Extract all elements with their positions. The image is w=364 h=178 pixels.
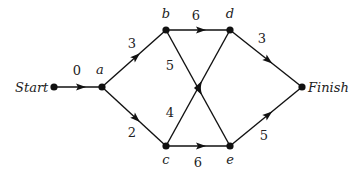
edge-weight: 5 <box>260 128 268 143</box>
edge-a-b: 3 <box>102 30 166 87</box>
edge-weight: 3 <box>258 31 266 46</box>
edge-d-finish: 3 <box>230 30 302 87</box>
edge-weight: 6 <box>192 8 200 23</box>
edge-weight: 3 <box>128 36 136 51</box>
edge-weight: 4 <box>166 105 174 120</box>
node-dot <box>298 83 305 90</box>
node-label: e <box>226 152 234 167</box>
node-dot <box>162 26 169 33</box>
edge-weight: 6 <box>194 155 202 170</box>
node-dot <box>98 83 105 90</box>
node-dot <box>50 83 57 90</box>
node-start: Start <box>15 80 58 95</box>
node-label: Finish <box>307 80 349 95</box>
node-b: b <box>162 6 170 34</box>
edge-a-c: 2 <box>102 87 166 146</box>
node-label: a <box>96 62 104 77</box>
edge-weight: 5 <box>166 58 174 73</box>
arrowhead-icon <box>194 79 205 91</box>
node-label: d <box>226 6 234 21</box>
edge-weight: 2 <box>128 125 136 140</box>
edge-start-a: 0 <box>54 63 102 91</box>
node-dot <box>226 26 233 33</box>
node-e: e <box>226 142 234 167</box>
edge-c-e: 6 <box>166 143 230 171</box>
edge-weight: 0 <box>73 63 81 78</box>
node-label: b <box>162 6 170 21</box>
activity-network-diagram: 032654635 StartabdceFinish <box>0 0 364 178</box>
node-dot <box>226 142 233 149</box>
edge-b-d: 6 <box>166 8 230 34</box>
node-d: d <box>226 6 234 34</box>
node-dot <box>162 142 169 149</box>
node-finish: Finish <box>298 80 348 95</box>
node-c: c <box>162 142 170 167</box>
edges-layer: 032654635 <box>54 8 302 170</box>
edge-e-finish: 5 <box>230 87 302 146</box>
node-label: c <box>162 152 170 167</box>
node-label: Start <box>15 80 49 95</box>
